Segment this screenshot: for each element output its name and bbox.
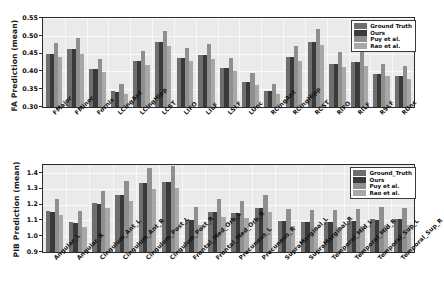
y-tick-label: 0.50 <box>22 32 38 40</box>
y-tick-label: 1.0 <box>27 232 38 240</box>
legend-item: Puy et al. <box>354 36 412 43</box>
legend-item: Ground Truth <box>354 23 412 30</box>
pib-legend: Ground_TruthOursPuy et al.Rao et al. <box>350 167 416 199</box>
bar <box>167 46 171 107</box>
legend-swatch <box>353 183 366 189</box>
legend-item: Puy et al. <box>353 183 412 190</box>
bar-group <box>196 18 218 107</box>
fa-x-tick-labels: FMajorFMinorFornixLCingAntLCingHippLCSTL… <box>42 109 415 155</box>
bar-group <box>218 18 240 107</box>
legend-item: Rao et al. <box>353 190 412 197</box>
pib-x-tick-labels: Angular_LAngular_RCingulum_Ant_LCingulum… <box>42 254 415 300</box>
y-tick-label: 1.3 <box>27 184 38 192</box>
bar-group <box>43 18 65 107</box>
y-tick-label: 0.9 <box>27 248 38 256</box>
bar-group <box>261 18 283 107</box>
legend-swatch <box>353 177 366 183</box>
bar-group <box>174 18 196 107</box>
legend-swatch <box>353 170 366 176</box>
y-tick-label: 1.1 <box>27 216 38 224</box>
pib-y-axis-label: PIB Prediction (mean) <box>12 166 21 258</box>
bar <box>320 45 324 107</box>
legend-swatch <box>353 190 366 196</box>
legend-item: Ours <box>353 177 412 184</box>
legend-swatch <box>354 23 367 29</box>
y-tick-label: 1.4 <box>27 169 38 177</box>
legend-item: Ours <box>354 30 412 37</box>
legend-label: Puy et al. <box>370 36 400 42</box>
pib-chart-panel: PIB Prediction (mean) 0.91.01.11.21.31.4… <box>0 152 425 305</box>
legend-item: Rao et al. <box>354 43 412 50</box>
legend-label: Rao et al. <box>370 43 400 49</box>
y-tick-label: 0.55 <box>22 14 38 22</box>
legend-label: Ground Truth <box>370 23 412 29</box>
bar-group <box>108 18 130 107</box>
legend-label: Rao et al. <box>369 190 399 196</box>
legend-item: Ground_Truth <box>353 170 412 177</box>
fa-y-axis-label: FA Prediction (mean) <box>10 22 19 112</box>
fa-legend: Ground TruthOursPuy et al.Rao et al. <box>351 20 416 52</box>
y-tick-label: 0.35 <box>22 85 38 93</box>
legend-label: Ours <box>369 177 384 183</box>
fa-chart-panel: FA Prediction (mean) 0.300.350.400.450.5… <box>0 0 425 152</box>
y-tick-label: 0.30 <box>22 103 38 111</box>
bar-group <box>43 165 66 252</box>
legend-label: Ours <box>370 30 385 36</box>
legend-label: Puy et al. <box>369 183 399 189</box>
bar <box>211 59 215 107</box>
legend-swatch <box>354 30 367 36</box>
legend-label: Ground_Truth <box>369 170 412 176</box>
y-tick-label: 0.45 <box>22 49 38 57</box>
legend-swatch <box>354 43 367 49</box>
bar-group <box>239 18 261 107</box>
y-tick-label: 1.2 <box>27 200 38 208</box>
legend-swatch <box>354 36 367 42</box>
bar-group <box>327 18 349 107</box>
y-tick-label: 0.40 <box>22 67 38 75</box>
